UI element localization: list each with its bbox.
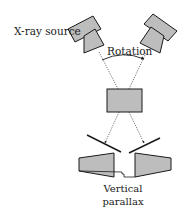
right-image-panel	[135, 153, 171, 177]
right-detector-line	[129, 138, 160, 153]
right-beam-lower	[129, 112, 144, 143]
left-detector-line	[87, 135, 121, 152]
diagram-stage: X-ray source Rotation Vertical parallax	[0, 0, 187, 214]
right-beam-upper	[129, 53, 146, 89]
rotation-label: Rotation	[107, 45, 153, 57]
vertical-parallax-label-line2: parallax	[102, 196, 143, 207]
diagram-svg: X-ray source Rotation Vertical parallax	[0, 0, 187, 214]
xray-source-label: X-ray source	[14, 25, 81, 37]
vertical-parallax-label-line1: Vertical	[103, 183, 143, 194]
left-beam-lower	[105, 112, 119, 143]
left-image-panel	[79, 153, 114, 177]
object-box	[107, 89, 142, 112]
